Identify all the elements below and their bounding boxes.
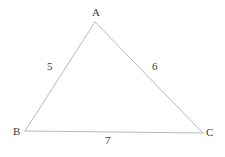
side-length-label-ab: 5 [47, 61, 53, 72]
side-length-label-bc: 7 [105, 135, 111, 146]
vertex-label-c: C [206, 127, 213, 138]
vertex-label-a: A [92, 7, 100, 18]
triangle-side-ac [95, 22, 203, 133]
triangle-figure-canvas: A B C 5 6 7 [0, 0, 225, 157]
triangle-side-bc [25, 131, 203, 133]
vertex-label-b: B [13, 126, 20, 137]
triangle-outline-svg [0, 0, 225, 157]
side-length-label-ac: 6 [152, 61, 158, 72]
triangle-side-ab [25, 22, 95, 131]
